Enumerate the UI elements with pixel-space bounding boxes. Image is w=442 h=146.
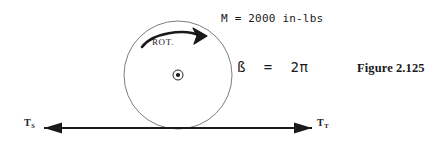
- rotation-label: ROT.: [152, 38, 174, 47]
- force-right-subscript: T: [324, 122, 328, 129]
- figure-caption: Figure 2.125: [357, 62, 425, 75]
- figure-2-125: M = 2000 in-lbs ß = 2π ROT. TS TT Figure…: [0, 0, 442, 146]
- moment-label: M = 2000 in-lbs: [221, 13, 323, 24]
- force-label-slack: TS: [24, 118, 34, 128]
- angle-of-twist-label: ß = 2π: [237, 60, 308, 74]
- axis-center-dot-icon: [173, 70, 183, 80]
- force-left-subscript: S: [31, 122, 35, 129]
- force-double-arrow: [44, 123, 312, 134]
- arrowhead-right-icon: [294, 123, 312, 134]
- arrowhead-left-icon: [44, 123, 62, 134]
- force-right-symbol: T: [317, 117, 324, 128]
- force-label-tight: TT: [317, 118, 328, 128]
- force-left-symbol: T: [24, 117, 31, 128]
